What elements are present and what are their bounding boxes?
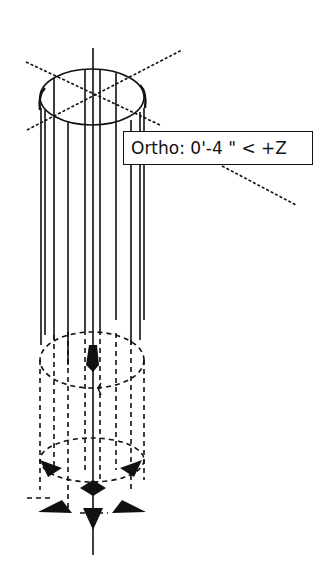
- ortho-tooltip: Ortho: 0'-4 " < +Z: [123, 131, 313, 165]
- tracking-line: [222, 166, 296, 205]
- cylinder-drawing[interactable]: [0, 0, 327, 585]
- cad-viewport[interactable]: Ortho: 0'-4 " < +Z: [0, 0, 327, 585]
- crosshair-cursor-icon: [26, 50, 182, 130]
